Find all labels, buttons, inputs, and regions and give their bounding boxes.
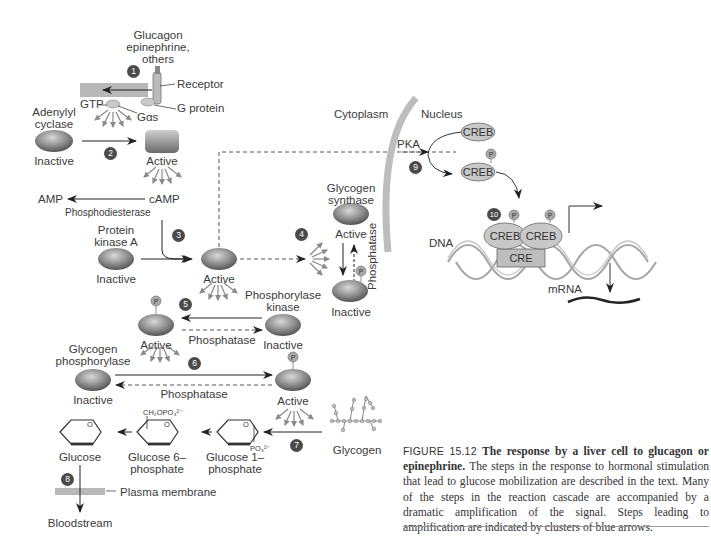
label-kinase-a: kinase A bbox=[94, 236, 137, 249]
label-phosphorylase-gp: phosphorylase bbox=[56, 355, 131, 368]
label-nucleus: Nucleus bbox=[421, 108, 463, 121]
label-ac-active: Active bbox=[146, 155, 177, 168]
caption-rule bbox=[403, 526, 709, 527]
phosphorylase-kinase-active bbox=[138, 314, 174, 336]
creb-label-1: CREB bbox=[463, 126, 494, 138]
label-gs-active: Active bbox=[335, 228, 366, 241]
protein-kinase-a-inactive bbox=[98, 248, 134, 270]
adenylyl-cyclase-inactive bbox=[35, 130, 73, 152]
label-phk-inactive: Inactive bbox=[263, 339, 303, 352]
label-pka-inactive: Inactive bbox=[96, 273, 136, 286]
caption-label: FIGURE 15.12 bbox=[403, 445, 477, 457]
label-gtp: GTP bbox=[80, 98, 104, 111]
label-amp: AMP bbox=[38, 193, 63, 206]
glucose-1-phosphate-ring bbox=[217, 420, 258, 444]
step-badge-4: 4 bbox=[295, 228, 308, 241]
step-badge-9: 9 bbox=[409, 161, 422, 174]
label-ring-o-g6p: O bbox=[164, 418, 170, 431]
label-pka-active: Active bbox=[203, 273, 234, 286]
label-camp: cAMP bbox=[149, 193, 180, 206]
step-badge-1: 1 bbox=[127, 65, 140, 78]
glycogen-synthase-inactive bbox=[332, 280, 368, 302]
label-kinase: kinase bbox=[266, 301, 299, 314]
glycogen-phosphorylase-inactive bbox=[75, 369, 111, 391]
amplification-arrows-1 bbox=[95, 110, 131, 127]
label-g1p-2: phosphate bbox=[208, 463, 262, 476]
label-phk-active: Active bbox=[140, 339, 171, 352]
amplification-arrows-6 bbox=[276, 409, 313, 426]
label-ch2opo3: CH₂OPO₃²⁻ bbox=[143, 406, 183, 419]
svg-text:P: P bbox=[548, 212, 553, 219]
label-receptor: Receptor bbox=[177, 78, 224, 91]
label-plasma-membrane: Plasma membrane bbox=[120, 486, 217, 499]
step-badge-8: 8 bbox=[61, 473, 74, 486]
step-badge-6: 6 bbox=[188, 357, 201, 370]
svg-text:P: P bbox=[489, 151, 494, 158]
label-glucose: Glucose bbox=[59, 451, 101, 464]
label-phk-phosphatase: Phosphatase bbox=[188, 334, 255, 347]
label-ring-o-glucose: O bbox=[87, 418, 93, 431]
label-ring-o-g1p: O bbox=[243, 418, 249, 431]
svg-text:P: P bbox=[512, 212, 517, 219]
glycogen-phosphorylase-active bbox=[275, 369, 311, 391]
label-gs-inactive: Inactive bbox=[331, 306, 371, 319]
label-gp-inactive: Inactive bbox=[73, 394, 113, 407]
svg-text:P: P bbox=[291, 354, 296, 361]
mrna-strand bbox=[568, 297, 640, 302]
label-cyclase: cyclase bbox=[35, 118, 73, 131]
phosphorylase-kinase-inactive bbox=[265, 314, 301, 336]
label-g6p-2: phosphate bbox=[130, 463, 184, 476]
label-glycogen: Glycogen bbox=[333, 444, 382, 457]
svg-text:P: P bbox=[154, 298, 159, 305]
adenylyl-cyclase-active bbox=[145, 130, 179, 153]
cre-label: CRE bbox=[509, 252, 532, 264]
label-gs-phosphatase: Phosphatase bbox=[366, 223, 379, 290]
glucose-ring bbox=[60, 420, 101, 444]
glucose-6-phosphate-ring bbox=[137, 416, 178, 444]
label-ac-inactive: Inactive bbox=[34, 155, 74, 168]
svg-text:P: P bbox=[359, 268, 364, 275]
gtp-icon bbox=[106, 100, 120, 108]
step-badge-10: 10 bbox=[487, 208, 501, 221]
svg-text:CREB: CREB bbox=[526, 230, 557, 242]
amplification-arrows-4 bbox=[310, 243, 329, 275]
label-cytoplasm: Cytoplasm bbox=[334, 108, 388, 121]
label-mrna: mRNA bbox=[548, 283, 582, 296]
g-protein-icon bbox=[141, 98, 155, 106]
glycogen-icon bbox=[330, 396, 382, 432]
nuclear-envelope bbox=[386, 98, 416, 252]
label-phosphodiesterase: Phosphodiesterase bbox=[65, 206, 151, 219]
creb-label-2: CREB bbox=[463, 166, 494, 178]
figure-caption: FIGURE 15.12 The response by a liver cel… bbox=[403, 444, 709, 535]
step-badge-7: 7 bbox=[290, 439, 303, 452]
label-gp-active: Active bbox=[277, 395, 308, 408]
receptor-icon bbox=[153, 72, 161, 104]
label-others: others bbox=[142, 53, 174, 66]
svg-text:CREB: CREB bbox=[490, 230, 521, 242]
label-bloodstream: Bloodstream bbox=[48, 517, 113, 530]
label-pka: PKA bbox=[397, 138, 420, 151]
label-g-alpha-s: Gαs bbox=[137, 111, 158, 124]
step-badge-3: 3 bbox=[172, 229, 185, 242]
label-g-protein: G protein bbox=[177, 102, 224, 115]
step-badge-2: 2 bbox=[104, 147, 117, 160]
label-dna: DNA bbox=[429, 237, 453, 250]
amplification-arrows-2 bbox=[144, 167, 181, 184]
step-badge-5: 5 bbox=[179, 298, 192, 311]
protein-kinase-a-active bbox=[201, 248, 237, 270]
label-gp-phosphatase: Phosphatase bbox=[160, 388, 227, 401]
label-synthase: synthase bbox=[328, 194, 374, 207]
